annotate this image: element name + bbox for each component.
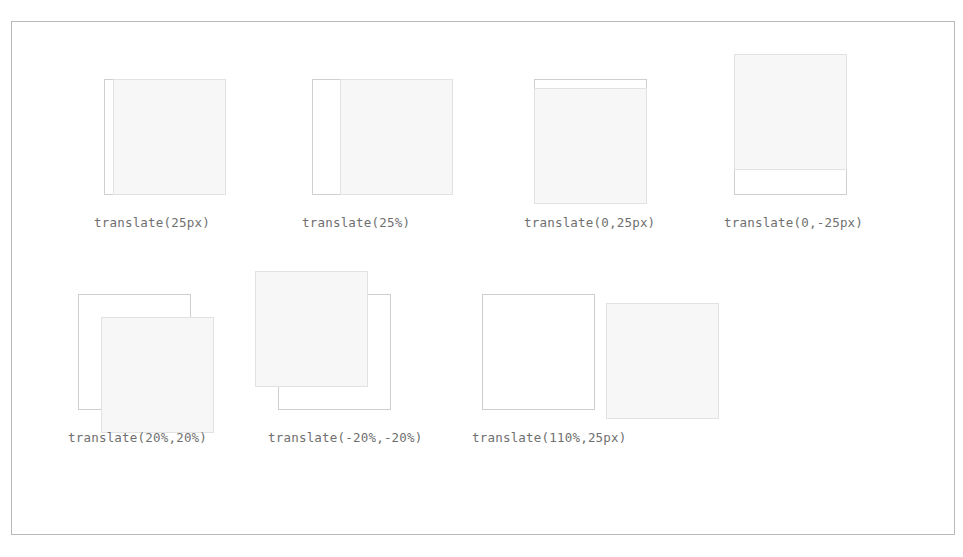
translated-box xyxy=(255,271,368,387)
demo-stage xyxy=(268,272,468,422)
demo-stage xyxy=(724,57,924,207)
demo-stage xyxy=(472,272,672,422)
demo-cell-translate-neg20pct-neg20pct: translate(-20%,-20%) xyxy=(268,272,468,472)
demo-label: translate(25px) xyxy=(94,215,324,230)
demo-cell-translate-25pct: translate(25%) xyxy=(302,57,502,257)
translated-box xyxy=(606,303,719,419)
demo-label: translate(-20%,-20%) xyxy=(268,430,498,445)
translated-box xyxy=(734,54,847,170)
demo-stage xyxy=(524,57,724,207)
demo-label: translate(25%) xyxy=(302,215,532,230)
demo-label: translate(0,-25px) xyxy=(724,215,954,230)
translated-box xyxy=(534,88,647,204)
demo-cell-translate-0-25px: translate(0,25px) xyxy=(524,57,724,257)
demo-cell-translate-0-neg25px: translate(0,-25px) xyxy=(724,57,924,257)
demo-stage xyxy=(94,57,294,207)
demo-label: translate(20%,20%) xyxy=(68,430,298,445)
translated-box xyxy=(101,317,214,433)
demo-cell-translate-20pct-20pct: translate(20%,20%) xyxy=(68,272,268,472)
demo-label: translate(110%,25px) xyxy=(472,430,702,445)
reference-box xyxy=(482,294,595,410)
demo-cell-translate-25px: translate(25px) xyxy=(94,57,294,257)
demo-label: translate(0,25px) xyxy=(524,215,754,230)
demo-stage xyxy=(302,57,502,207)
translated-box xyxy=(113,79,226,195)
demo-stage xyxy=(68,272,268,422)
figure-frame: translate(25px) translate(25%) translate… xyxy=(11,21,955,535)
demo-cell-translate-110pct-25px: translate(110%,25px) xyxy=(472,272,672,472)
translated-box xyxy=(340,79,453,195)
